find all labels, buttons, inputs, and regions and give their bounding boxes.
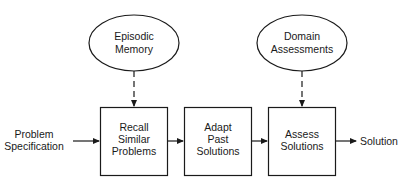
adapt-past-solutions-node: Adapt Past Solutions — [185, 108, 252, 176]
domain-assessments-node: Domain Assessments — [257, 15, 347, 71]
recall-label-line2: Similar — [118, 133, 151, 145]
episodic-memory-node: Episodic Memory — [89, 15, 179, 71]
problem-specification-line2: Specification — [4, 140, 64, 152]
problem-specification-input: Problem Specification — [4, 128, 64, 152]
domain-assessments-label-line1: Domain — [284, 30, 320, 42]
solution-output-label: Solution — [360, 135, 398, 147]
domain-assessments-label-line2: Assessments — [271, 43, 333, 55]
assess-label-line2: Solutions — [280, 140, 323, 152]
adapt-label-line3: Solutions — [196, 145, 239, 157]
case-based-reasoning-diagram: Episodic Memory Domain Assessments Recal… — [0, 0, 409, 189]
recall-label-line3: Problems — [112, 145, 156, 157]
assess-solutions-node: Assess Solutions — [269, 108, 336, 176]
episodic-memory-label-line1: Episodic — [114, 30, 154, 42]
episodic-memory-label-line2: Memory — [115, 43, 154, 55]
assess-label-line1: Assess — [285, 128, 319, 140]
adapt-label-line2: Past — [207, 133, 228, 145]
problem-specification-line1: Problem — [14, 128, 53, 140]
adapt-label-line1: Adapt — [204, 121, 232, 133]
recall-similar-problems-node: Recall Similar Problems — [101, 108, 168, 176]
recall-label-line1: Recall — [119, 121, 148, 133]
